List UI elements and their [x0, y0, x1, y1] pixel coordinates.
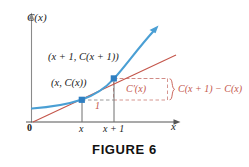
- y-axis: [29, 13, 34, 123]
- point-label-lower: (x, C(x)): [51, 78, 87, 89]
- figure-caption: FIGURE 6: [0, 142, 249, 157]
- figure-container: C(x) x 0 x x + 1 (x + 1, C(x + 1)) (x, C…: [0, 0, 249, 167]
- origin-label: 0: [27, 123, 32, 133]
- derivative-label: C′(x): [126, 84, 146, 94]
- point-label-upper: (x + 1, C(x + 1)): [48, 52, 119, 63]
- x-tick-label-x: x: [79, 124, 83, 134]
- difference-label: C(x + 1) − C(x): [178, 84, 242, 94]
- cost-curve: [32, 26, 159, 109]
- run-length-label: 1: [95, 101, 100, 111]
- brace-icon: [170, 79, 175, 100]
- x-axis-label: x: [171, 121, 176, 132]
- curve-point-lower: [79, 97, 85, 103]
- curve-point-upper: [111, 75, 117, 81]
- x-tick-label-x-plus-1: x + 1: [103, 124, 124, 134]
- dashed-connectors: [82, 79, 167, 101]
- y-axis-label: C(x): [27, 12, 47, 23]
